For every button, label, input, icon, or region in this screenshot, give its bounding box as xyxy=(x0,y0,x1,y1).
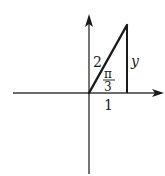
hypotenuse-label: 2 xyxy=(93,54,102,70)
angle-denominator-label: 3 xyxy=(104,80,112,94)
opposite-label: y xyxy=(130,53,140,69)
triangle-diagram: 2 π 3 1 y xyxy=(0,0,165,176)
adjacent-label: 1 xyxy=(104,97,113,113)
angle-numerator-label: π xyxy=(104,67,112,81)
